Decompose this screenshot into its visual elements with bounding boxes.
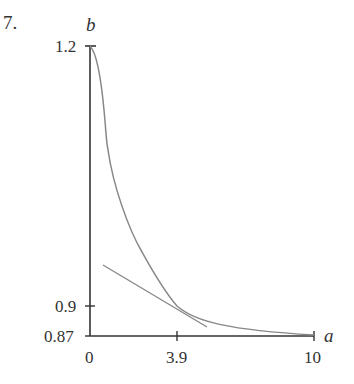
x-tick-label-mid: 3.9	[166, 348, 187, 367]
y-tick-label-bottom: 0.87	[44, 327, 74, 346]
curve	[90, 46, 314, 335]
y-axis-label: b	[86, 14, 96, 35]
chart: b a 1.2 0.9 0.87 0 3.9 10	[0, 0, 354, 384]
x-tick-label-zero: 0	[85, 348, 94, 367]
y-tick-label-top: 1.2	[55, 37, 76, 56]
x-axis-label: a	[324, 325, 334, 346]
x-tick-label-end: 10	[304, 348, 321, 367]
y-tick-label-mid: 0.9	[55, 297, 76, 316]
